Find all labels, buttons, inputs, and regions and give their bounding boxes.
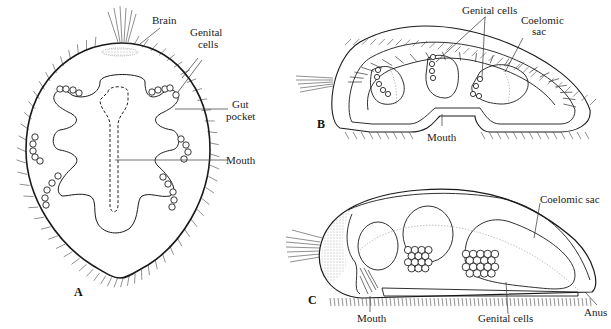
label-coelomic-sac-b-2: sac bbox=[532, 25, 546, 37]
label-mouth-b: Mouth bbox=[427, 131, 457, 143]
label-gut-pocket-1: Gut bbox=[232, 98, 249, 110]
label-genital-cells-a-1: Genital bbox=[190, 26, 222, 38]
panel-label-a: A bbox=[74, 285, 83, 299]
label-mouth-a: Mouth bbox=[226, 154, 256, 166]
coelomic-sac-b-1 bbox=[371, 66, 405, 104]
label-genital-cells-b: Genital cells bbox=[462, 4, 517, 16]
apical-tuft bbox=[108, 6, 136, 42]
panel-label-b: B bbox=[317, 117, 325, 131]
label-gut-pocket-2: pocket bbox=[226, 110, 255, 122]
panel-c-diagram: Coelomic sac Mouth Genital cells Anus C bbox=[286, 189, 607, 324]
label-mouth-c: Mouth bbox=[357, 312, 387, 324]
body-outline-c bbox=[319, 189, 595, 298]
label-brain: Brain bbox=[152, 14, 177, 26]
brain bbox=[102, 48, 138, 56]
genital-cells-b bbox=[374, 54, 482, 98]
mouth-outline bbox=[100, 87, 128, 212]
gut-pocket-outline bbox=[53, 75, 179, 233]
label-anus: Anus bbox=[584, 306, 607, 318]
panel-b-diagram: Genital cells Coelomic sac Mouth B bbox=[296, 4, 596, 143]
label-coelomic-sac-c: Coelomic sac bbox=[540, 193, 600, 205]
label-genital-cells-c: Genital cells bbox=[478, 312, 533, 324]
coelomic-sac-c-1 bbox=[358, 222, 398, 270]
genital-cells-c bbox=[404, 246, 498, 277]
label-genital-cells-a-2: cells bbox=[198, 38, 218, 50]
panel-a-diagram: Brain Genital cells Gut pocket Mouth A bbox=[17, 6, 256, 299]
panel-label-c: C bbox=[308, 293, 317, 307]
